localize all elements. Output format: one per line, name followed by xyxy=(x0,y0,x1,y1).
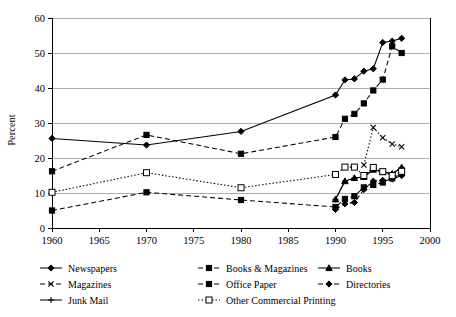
x-tick-label-1980: 1980 xyxy=(231,235,252,246)
legend-label: Other Commercial Printing xyxy=(226,295,335,306)
x-tick-label-1960: 1960 xyxy=(42,235,63,246)
data-point-1995 xyxy=(380,77,385,82)
data-point-1960 xyxy=(49,189,55,195)
data-point-1970 xyxy=(144,132,149,137)
legend-label: Office Paper xyxy=(226,279,277,290)
legend-label: Books xyxy=(346,263,372,274)
y-tick-label-10: 10 xyxy=(35,188,46,199)
data-point-1992 xyxy=(351,164,357,170)
data-point-1980 xyxy=(238,197,243,202)
legend-label: Newspapers xyxy=(68,263,117,274)
data-point-1995 xyxy=(380,169,386,175)
data-point-1993 xyxy=(361,101,366,106)
data-point-1992 xyxy=(352,194,357,199)
x-tick-label-1990: 1990 xyxy=(325,235,346,246)
y-tick-label-40: 40 xyxy=(35,83,46,94)
chart-figure: 0102030405060 19601965197019751980198519… xyxy=(0,0,456,317)
data-point-1990 xyxy=(333,134,338,139)
x-tick-label-2000: 2000 xyxy=(420,235,441,246)
legend-label: Magazines xyxy=(68,279,111,290)
y-tick-label-0: 0 xyxy=(40,223,45,234)
data-point-1980 xyxy=(238,185,244,191)
percent-recovered-line-chart: 0102030405060 19601965197019751980198519… xyxy=(0,0,456,317)
data-point-1960 xyxy=(49,208,54,213)
y-axis-title-group: Percent xyxy=(6,114,17,146)
data-point-1960 xyxy=(49,169,54,174)
data-point-1993 xyxy=(361,173,367,179)
legend-marker xyxy=(206,281,211,286)
legend-marker xyxy=(206,265,211,270)
legend-label: Directories xyxy=(346,279,391,290)
data-point-1991 xyxy=(342,116,347,121)
data-point-1980 xyxy=(238,151,243,156)
data-point-1996 xyxy=(390,44,395,49)
y-tick-label-50: 50 xyxy=(35,48,46,59)
data-point-1996 xyxy=(389,173,395,179)
y-tick-label-30: 30 xyxy=(35,118,46,129)
y-tick-label-60: 60 xyxy=(35,13,46,24)
legend-label: Junk Mail xyxy=(68,295,109,306)
x-tick-label-1995: 1995 xyxy=(372,235,393,246)
data-point-1992 xyxy=(352,111,357,116)
legend-label: Books & Magazines xyxy=(226,263,308,274)
data-point-1970 xyxy=(144,170,150,176)
legend-marker xyxy=(206,297,212,303)
data-point-1994 xyxy=(371,88,376,93)
x-tick-label-1975: 1975 xyxy=(183,235,204,246)
data-point-1997 xyxy=(399,50,404,55)
data-point-1991 xyxy=(342,164,348,170)
x-tick-label-1965: 1965 xyxy=(89,235,110,246)
data-point-1990 xyxy=(333,171,339,177)
y-tick-label-20: 20 xyxy=(35,153,46,164)
x-tick-label-1985: 1985 xyxy=(278,235,299,246)
data-point-1970 xyxy=(144,190,149,195)
data-point-1994 xyxy=(370,164,376,170)
data-point-1997 xyxy=(399,168,405,174)
y-axis-title: Percent xyxy=(6,114,17,146)
x-tick-label-1970: 1970 xyxy=(136,235,157,246)
